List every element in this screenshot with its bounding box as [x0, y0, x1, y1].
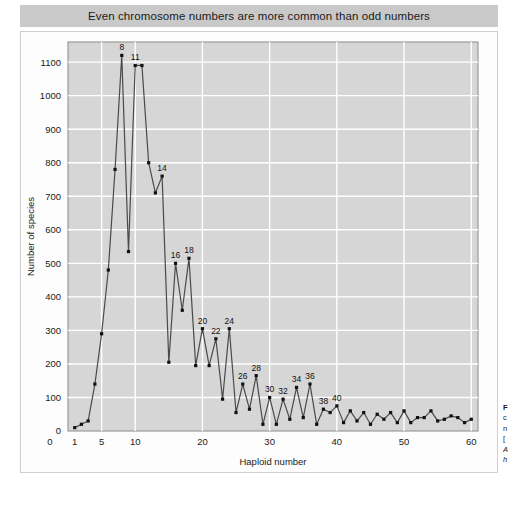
data-point-marker: [113, 168, 116, 171]
data-point-marker: [228, 327, 231, 330]
data-point-marker: [268, 396, 271, 399]
data-point-marker: [376, 413, 379, 416]
data-point-label: 8: [119, 42, 124, 52]
chart-plot: 0100200300400500600700800900100011000151…: [20, 31, 498, 473]
data-point-marker: [416, 416, 419, 419]
data-point-marker: [208, 364, 211, 367]
data-point-marker: [315, 423, 318, 426]
caption-line-6: h: [503, 455, 519, 465]
data-point-marker: [120, 54, 123, 57]
data-point-marker: [275, 423, 278, 426]
data-point-marker: [248, 408, 251, 411]
data-point-marker: [450, 414, 453, 417]
figure-title-banner: Even chromosome numbers are more common …: [20, 5, 498, 27]
data-point-marker: [154, 191, 157, 194]
data-point-marker: [308, 382, 311, 385]
data-point-marker: [221, 398, 224, 401]
caption-line-4: [: [503, 434, 519, 444]
caption-line-5: A: [503, 445, 519, 455]
data-point-marker: [134, 64, 137, 67]
data-point-marker: [443, 418, 446, 421]
data-point-marker: [87, 419, 90, 422]
data-point-marker: [382, 418, 385, 421]
x-axis-tick-label: 50: [399, 436, 410, 447]
x-axis-tick-label: 40: [332, 436, 343, 447]
data-point-marker: [402, 409, 405, 412]
data-point-marker: [463, 421, 466, 424]
data-point-marker: [369, 423, 372, 426]
y-axis-tick-label: 200: [45, 358, 61, 369]
data-point-marker: [396, 421, 399, 424]
page-title: Even chromosome numbers are more common …: [88, 10, 430, 22]
data-point-marker: [456, 416, 459, 419]
data-point-marker: [295, 386, 298, 389]
data-point-marker: [160, 175, 163, 178]
data-point-marker: [423, 416, 426, 419]
caption-line-3: n: [503, 424, 519, 434]
data-point-marker: [355, 419, 358, 422]
data-point-marker: [181, 309, 184, 312]
y-axis-tick-label: 800: [45, 157, 61, 168]
caption-line-2: c: [503, 413, 519, 423]
data-point-marker: [329, 411, 332, 414]
figure-root: Even chromosome numbers are more common …: [0, 0, 519, 509]
data-point-label: 34: [292, 374, 302, 384]
data-point-marker: [140, 64, 143, 67]
x-axis-tick-label: 30: [264, 436, 275, 447]
data-point-marker: [187, 257, 190, 260]
data-point-marker: [349, 409, 352, 412]
y-axis-tick-label: 1000: [40, 90, 61, 101]
data-point-label: 36: [305, 371, 315, 381]
data-point-label: 26: [238, 371, 248, 381]
data-point-label: 38: [319, 396, 329, 406]
x-axis-tick-label: 5: [99, 436, 104, 447]
y-axis-tick-label: 900: [45, 124, 61, 135]
data-point-marker: [335, 404, 338, 407]
x-axis-tick-label: 10: [130, 436, 141, 447]
data-point-marker: [174, 262, 177, 265]
y-axis-tick-label: 1100: [41, 57, 61, 68]
figure-caption: F c n [ A h: [503, 403, 519, 465]
data-point-marker: [214, 337, 217, 340]
x-axis-tick-label: 0: [47, 436, 52, 447]
data-point-label: 11: [131, 52, 140, 62]
data-point-marker: [107, 268, 110, 271]
y-axis-tick-label: 700: [45, 191, 61, 202]
data-point-marker: [322, 408, 325, 411]
data-point-marker: [194, 364, 197, 367]
data-point-label: 40: [332, 393, 342, 403]
y-axis-tick-label: 400: [45, 291, 61, 302]
data-point-label: 16: [171, 250, 181, 260]
data-point-marker: [302, 416, 305, 419]
data-point-marker: [80, 423, 83, 426]
data-point-marker: [362, 411, 365, 414]
data-point-label: 30: [265, 384, 275, 394]
y-axis-tick-label: 300: [45, 325, 61, 336]
x-axis-title: Haploid number: [239, 456, 306, 467]
data-point-label: 20: [198, 316, 208, 326]
data-point-marker: [73, 426, 76, 429]
y-axis-title: Number of species: [25, 197, 36, 276]
x-axis-tick-label: 20: [197, 436, 208, 447]
data-point-marker: [167, 361, 170, 364]
data-point-marker: [470, 418, 473, 421]
data-point-marker: [201, 327, 204, 330]
data-point-marker: [93, 382, 96, 385]
data-point-marker: [342, 421, 345, 424]
data-point-label: 14: [157, 163, 167, 173]
data-point-marker: [100, 332, 103, 335]
data-point-marker: [409, 421, 412, 424]
data-point-marker: [436, 419, 439, 422]
data-point-marker: [288, 418, 291, 421]
data-point-marker: [389, 411, 392, 414]
y-axis-tick-label: 0: [56, 425, 61, 436]
data-point-label: 24: [225, 316, 235, 326]
data-point-marker: [255, 374, 258, 377]
x-axis-tick-label: 60: [466, 436, 477, 447]
data-point-label: 22: [211, 326, 221, 336]
data-point-marker: [429, 409, 432, 412]
data-point-marker: [241, 382, 244, 385]
data-point-label: 18: [184, 245, 194, 255]
data-point-marker: [127, 250, 130, 253]
y-axis-tick-label: 500: [45, 258, 61, 269]
